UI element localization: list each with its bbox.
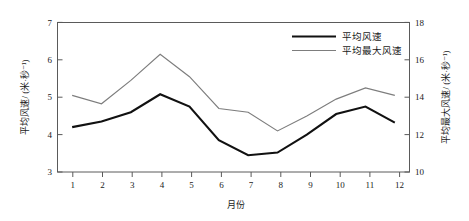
right-tick-label: 12 <box>415 130 424 140</box>
chart-legend: 平均风速 平均最大风速 <box>292 31 402 56</box>
x-axis-tick-labels: 1 2 3 4 5 6 7 8 9 10 11 12 <box>71 180 405 190</box>
left-tick-label: 3 <box>48 167 53 177</box>
legend-label-average-max-wind-speed: 平均最大风速 <box>342 45 402 56</box>
x-tick-label: 6 <box>219 180 224 190</box>
legend-label-average-wind-speed: 平均风速 <box>342 31 382 42</box>
x-tick-label: 1 <box>71 180 76 190</box>
x-tick-label: 10 <box>336 180 346 190</box>
x-tick-label: 3 <box>130 180 135 190</box>
x-axis-ticks <box>73 172 400 177</box>
left-tick-label: 5 <box>48 92 53 102</box>
x-tick-label: 2 <box>100 180 105 190</box>
x-tick-label: 9 <box>308 180 313 190</box>
right-axis-ticks <box>405 22 410 172</box>
wind-speed-chart-figure: 7 6 5 4 3 18 16 14 12 10 <box>0 0 469 221</box>
left-axis-tick-labels: 7 6 5 4 3 <box>48 18 53 178</box>
x-tick-label: 4 <box>160 180 165 190</box>
left-tick-label: 7 <box>48 18 53 28</box>
x-tick-label: 5 <box>189 180 194 190</box>
left-tick-label: 6 <box>48 55 53 65</box>
x-tick-label: 11 <box>366 180 375 190</box>
series-line-average-max-wind-speed <box>72 54 395 131</box>
y2-axis-title: 平均最大风速/ (米·秒⁻¹) <box>440 50 451 143</box>
y-axis-title: 平均风速/ (米·秒⁻¹) <box>19 59 30 134</box>
right-tick-label: 10 <box>415 167 425 177</box>
x-tick-label: 12 <box>395 180 404 190</box>
right-tick-label: 18 <box>415 18 425 28</box>
left-tick-label: 4 <box>48 130 53 140</box>
right-tick-label: 16 <box>415 55 425 65</box>
x-tick-label: 8 <box>279 180 284 190</box>
right-tick-label: 14 <box>415 92 425 102</box>
right-axis-tick-labels: 18 16 14 12 10 <box>415 18 425 178</box>
left-axis-ticks <box>58 22 63 172</box>
chart-canvas: 7 6 5 4 3 18 16 14 12 10 <box>0 0 469 221</box>
x-tick-label: 7 <box>249 180 254 190</box>
series-line-average-wind-speed <box>72 94 395 155</box>
x-axis-title: 月份 <box>227 199 245 210</box>
